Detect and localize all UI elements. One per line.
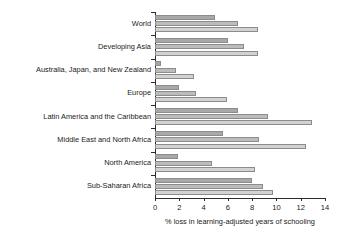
bar [155,74,194,79]
bar [155,144,306,149]
bar-group [155,15,325,32]
bar [155,184,263,189]
bar [155,161,212,166]
x-axis-tick [325,198,326,201]
x-axis-tick-label: 14 [315,203,335,212]
category-label: North America [0,159,151,167]
bar [155,190,273,195]
bar [155,38,228,43]
bar [155,21,238,26]
x-axis-tick [252,198,253,201]
bar [155,27,258,32]
plot-area [155,12,325,198]
bar [155,44,244,49]
x-axis-tick-label: 4 [194,203,214,212]
x-axis-title: % loss in learning-adjusted years of sch… [155,217,325,226]
category-label: Australia, Japan, and New Zealand [0,66,151,74]
bar [155,61,161,66]
category-label: Developing Asia [0,43,151,51]
x-axis-tick [179,198,180,201]
x-axis-tick-label: 8 [242,203,262,212]
bar [155,137,259,142]
x-axis-tick [204,198,205,201]
bar-group [155,154,325,171]
bar-group [155,178,325,195]
x-axis-tick [301,198,302,201]
bar [155,85,179,90]
x-axis-tick [276,198,277,201]
category-label: Latin America and the Caribbean [0,113,151,121]
category-label: World [0,20,151,28]
bar-group [155,61,325,78]
bar [155,114,268,119]
bar-group [155,38,325,55]
x-axis-line [155,198,325,199]
category-label: Sub-Saharan Africa [0,182,151,190]
category-axis-labels: WorldDeveloping AsiaAustralia, Japan, an… [0,12,151,198]
bar-chart: WorldDeveloping AsiaAustralia, Japan, an… [0,0,340,241]
bar-group [155,108,325,125]
bar-group [155,85,325,102]
bar [155,91,196,96]
category-label: Middle East and North Africa [0,136,151,144]
bar [155,68,176,73]
bar-group [155,131,325,148]
x-axis-tick-label: 12 [291,203,311,212]
x-axis-tick-label: 0 [145,203,165,212]
bar [155,120,312,125]
x-axis-tick [155,198,156,201]
bar [155,131,223,136]
bar [155,167,255,172]
x-axis-tick [228,198,229,201]
x-axis-tick-label: 6 [218,203,238,212]
bar [155,178,252,183]
bar [155,108,238,113]
bar [155,97,227,102]
bar [155,51,258,56]
x-axis-tick-label: 10 [266,203,286,212]
bar [155,154,178,159]
x-axis-tick-label: 2 [169,203,189,212]
category-label: Europe [0,89,151,97]
bar [155,15,215,20]
